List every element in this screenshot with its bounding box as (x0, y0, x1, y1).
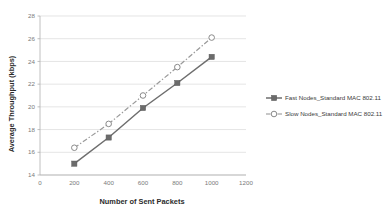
legend-item-slow-nodes[interactable]: Slow Nodes_Standard MAC 802.11 (266, 110, 383, 117)
x-tick-label: 1000 (205, 179, 219, 186)
y-tick-label: 26 (28, 35, 35, 42)
x-tick-labels-group: 020040060080010001200 (38, 179, 253, 186)
x-axis-title: Number of Sent Packets (99, 197, 184, 206)
y-tick-label: 24 (28, 58, 35, 65)
x-tick-label: 600 (138, 179, 149, 186)
series-markers-group (72, 35, 215, 166)
x-tick-label: 400 (104, 179, 115, 186)
y-tick-label: 22 (28, 80, 35, 87)
x-tick-label: 0 (38, 179, 42, 186)
y-tick-label: 14 (28, 171, 35, 178)
data-point-marker-fast-nodes (140, 105, 145, 110)
legend-marker-open-circle-icon (271, 111, 277, 117)
x-tick-label: 200 (69, 179, 80, 186)
x-tick-label: 1200 (239, 179, 253, 186)
legend-label: Fast Nodes_Standard MAC 802.11 (285, 94, 381, 101)
x-tick-label: 800 (172, 179, 183, 186)
y-tick-label: 28 (28, 12, 35, 19)
data-point-marker-slow-nodes (106, 121, 112, 127)
data-point-marker-slow-nodes (209, 35, 215, 41)
data-point-marker-fast-nodes (209, 54, 214, 59)
series-lines-group (74, 38, 211, 164)
data-point-marker-fast-nodes (175, 80, 180, 85)
y-tick-label: 16 (28, 148, 35, 155)
y-tick-labels-group: 1416182022242628 (28, 12, 35, 178)
y-tick-label: 18 (28, 126, 35, 133)
line-chart-svg: 1416182022242628 020040060080010001200 A… (0, 0, 392, 213)
data-point-marker-fast-nodes (106, 135, 111, 140)
chart-legend: Fast Nodes_Standard MAC 802.11Slow Nodes… (266, 94, 383, 117)
legend-marker-filled-square-icon (272, 95, 277, 100)
legend-label: Slow Nodes_Standard MAC 802.11 (285, 110, 383, 117)
chart-canvas: 1416182022242628 020040060080010001200 A… (0, 0, 392, 213)
legend-item-fast-nodes[interactable]: Fast Nodes_Standard MAC 802.11 (266, 94, 381, 101)
y-tick-label: 20 (28, 103, 35, 110)
chart-container: 1416182022242628 020040060080010001200 A… (0, 0, 392, 213)
data-point-marker-slow-nodes (140, 93, 146, 99)
data-point-marker-slow-nodes (175, 64, 181, 70)
data-point-marker-slow-nodes (72, 145, 78, 151)
data-point-marker-fast-nodes (72, 161, 77, 166)
y-axis-title: Average Throughput (kbps) (7, 55, 16, 152)
